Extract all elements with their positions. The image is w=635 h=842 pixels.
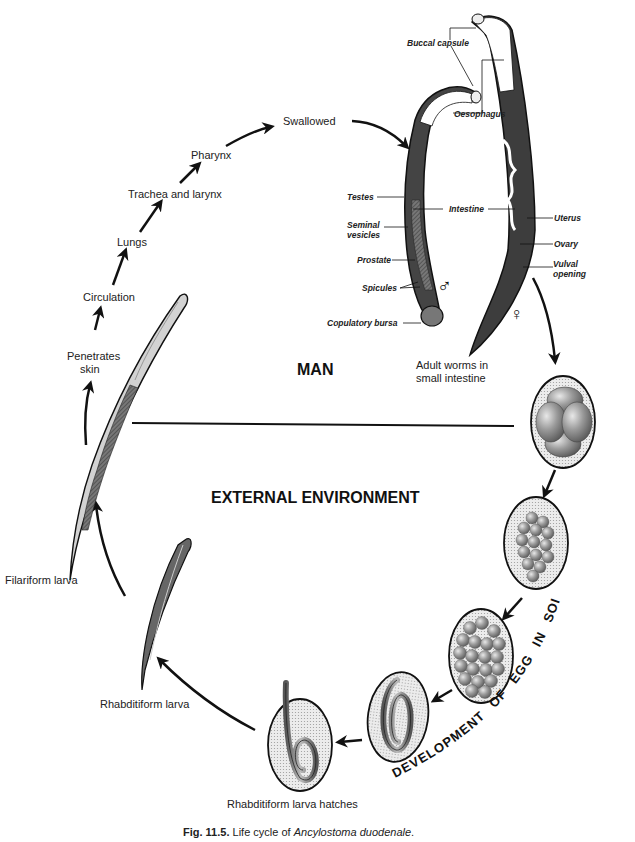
arrow-to-lungs [113,252,125,285]
label-intestine: Intestine [449,204,484,214]
step-pharynx: Pharynx [191,149,232,161]
life-cycle-diagram: MAN EXTERNAL ENVIRONMENT Penetrates skin… [0,0,635,842]
label-filariform-larva: Filariform larva [5,574,79,586]
host-environment-divider [132,423,514,426]
label-vulval-1: Vulval [553,259,579,269]
filariform-larva [70,294,187,580]
arrow-morula-to-later [505,598,522,617]
label-prostate: Prostate [357,255,391,265]
label-copulatory-bursa: Copulatory bursa [327,318,398,328]
label-buccal-capsule: Buccal capsule [407,38,469,48]
egg-hatching [268,683,332,791]
step-swallowed: Swallowed [283,115,336,127]
label-seminal-2: vesicles [347,230,380,240]
label-oesophagus: Oesophagus [454,109,506,119]
label-testes: Testes [347,192,374,202]
step-penetrates-2: skin [80,363,100,375]
label-seminal-1: Seminal [347,220,380,230]
egg-morula [449,609,513,703]
arrow-egg-to-morula [545,470,555,494]
step-circulation: Circulation [83,291,135,303]
arrow-to-hatch [340,740,362,742]
arrow-eggs-passed [533,278,555,360]
adult-caption-1: Adult worms in [416,359,488,371]
arrow-to-rhabditiform [160,660,255,730]
region-man-label: MAN [297,361,333,378]
arrow-to-embryonated [435,690,452,700]
adult-caption-2: small intestine [416,372,486,384]
label-uterus: Uterus [554,213,581,223]
egg-multicell [504,497,568,589]
step-penetrates-1: Penetrates [67,350,121,362]
label-spicules: Spicules [362,283,397,293]
arrow-to-pharynx [180,165,198,183]
region-environment-label: EXTERNAL ENVIRONMENT [211,489,420,506]
arrow-to-circulation [95,310,100,330]
step-trachea: Trachea and larynx [128,188,222,200]
arrow-to-adult-worms [352,121,406,146]
label-larva-hatches: Rhabditiform larva hatches [227,798,358,810]
arrow-to-swallowed [226,127,270,146]
step-lungs: Lungs [117,236,147,248]
male-symbol-icon: ♂ [437,274,452,296]
arrow-to-filariform [96,505,125,596]
label-vulval-2: opening [553,269,587,279]
egg-four-cell [531,376,595,468]
label-rhabditiform-larva: Rhabditiform larva [100,698,190,710]
female-worm [470,14,535,355]
arrow-to-penetrates [85,385,90,445]
female-symbol-icon: ♀ [510,304,524,324]
figure-caption: Fig. 11.5. Life cycle of Ancylostoma duo… [183,826,414,838]
label-ovary: Ovary [554,239,579,249]
arrow-to-trachea [140,203,160,232]
